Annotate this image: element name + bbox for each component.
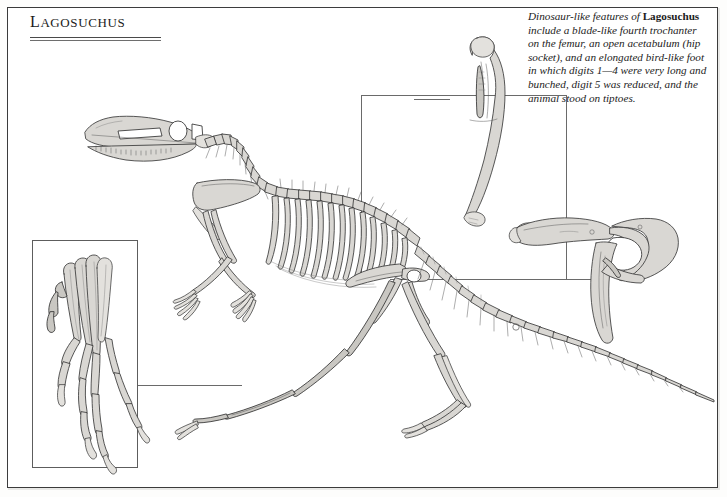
illustration-plate: Lagosuchus Dinosaur-like features of Lag…: [0, 0, 727, 497]
skeleton-region: [60, 110, 720, 440]
